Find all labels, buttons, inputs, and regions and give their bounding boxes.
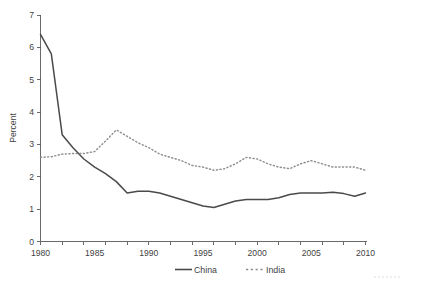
chart-container: 01234567 1980198519901995200020052010 Pe… xyxy=(0,0,430,285)
series-line-india xyxy=(41,130,366,170)
legend-label-india: India xyxy=(266,265,285,275)
y-tick-label: 1 xyxy=(29,204,34,214)
chart-legend: China India xyxy=(175,265,285,275)
legend-label-china: China xyxy=(194,265,217,275)
x-axis-minor-ticks xyxy=(41,242,366,246)
x-tick-label: 2010 xyxy=(356,248,375,258)
x-tick-label: 2000 xyxy=(248,248,267,258)
series-line-china xyxy=(41,34,366,207)
x-tick-label: 2005 xyxy=(302,248,321,258)
y-tick-label: 2 xyxy=(29,172,34,182)
line-chart: 01234567 1980198519901995200020052010 Pe… xyxy=(0,0,430,285)
y-tick-label: 7 xyxy=(29,10,34,20)
y-tick-label: 3 xyxy=(29,139,34,149)
y-axis-tick-labels: 01234567 xyxy=(29,10,34,247)
y-tick-label: 6 xyxy=(29,42,34,52)
y-tick-label: 0 xyxy=(29,237,34,247)
y-axis-ticks xyxy=(37,15,41,242)
x-tick-label: 1995 xyxy=(193,248,212,258)
y-tick-label: 4 xyxy=(29,107,34,117)
x-tick-label: 1980 xyxy=(31,248,50,258)
x-tick-label: 1985 xyxy=(85,248,104,258)
x-tick-label: 1990 xyxy=(139,248,158,258)
y-tick-label: 5 xyxy=(29,75,34,85)
y-axis-title: Percent xyxy=(8,113,18,143)
x-axis-tick-labels: 1980198519901995200020052010 xyxy=(31,248,375,258)
